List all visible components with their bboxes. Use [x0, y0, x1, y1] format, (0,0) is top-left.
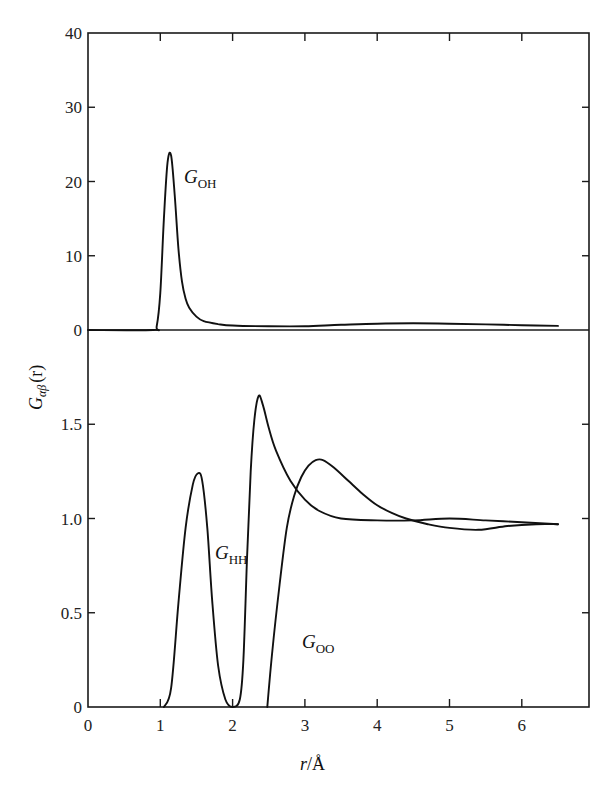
- x-tick-label: 4: [373, 716, 382, 735]
- y-tick-label: 0: [74, 321, 83, 340]
- x-tick-label: 6: [518, 716, 527, 735]
- y-tick-label: 1.5: [61, 415, 82, 434]
- curve-g-oo: [267, 459, 558, 707]
- rdf-chart: 012345601020304000.51.01.5 GOH GHH GOO G…: [0, 0, 608, 791]
- x-tick-label: 3: [301, 716, 310, 735]
- series-label-ghh: GHH: [215, 542, 248, 567]
- x-tick-label: 2: [228, 716, 237, 735]
- y-tick-label: 10: [65, 247, 82, 266]
- y-axis-label: Gαβ(r): [26, 365, 49, 410]
- y-tick-label: 0.5: [61, 604, 82, 623]
- x-tick-label: 5: [445, 716, 454, 735]
- x-axis-label: r/Å: [300, 754, 325, 774]
- series-label-goo: GOO: [302, 631, 335, 656]
- plot-frame: [88, 33, 589, 707]
- y-tick-label: 30: [65, 98, 82, 117]
- x-tick-label: 0: [84, 716, 93, 735]
- x-tick-label: 1: [156, 716, 165, 735]
- y-tick-label: 40: [65, 24, 82, 43]
- series-label-goh: GOH: [184, 166, 217, 191]
- curve-g-oh: [88, 153, 558, 331]
- y-tick-label: 1.0: [61, 510, 82, 529]
- y-tick-label: 20: [65, 173, 82, 192]
- y-tick-label: 0: [74, 698, 83, 717]
